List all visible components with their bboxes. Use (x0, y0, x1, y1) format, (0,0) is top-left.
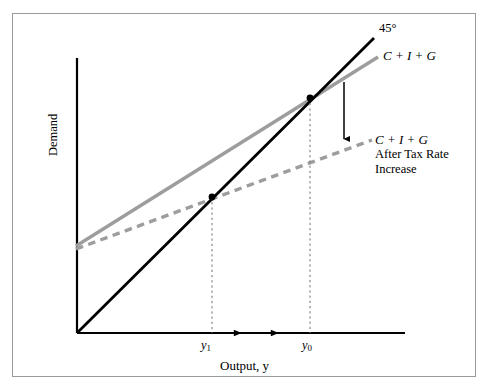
label-cig-original: C + I + G (383, 48, 436, 63)
x-axis-title: Output, y (220, 358, 269, 373)
label-cig-after-tax: C + I + G (375, 132, 428, 147)
label-45-degree: 45° (379, 21, 397, 36)
x-tick-y0-subscript: 0 (308, 343, 313, 353)
x-tick-label-y1: y1 (201, 338, 211, 354)
after-tax-line-1: After Tax Rate (375, 147, 449, 162)
label-after-tax-caption: After Tax Rate Increase (375, 147, 449, 177)
after-tax-line-2: Increase (375, 162, 449, 177)
y-axis-title: Demand (46, 86, 61, 156)
x-tick-label-y0: y0 (302, 338, 312, 354)
x-tick-y1-subscript: 1 (207, 343, 212, 353)
figure-root: 45° C + I + G C + I + G After Tax Rate I… (0, 0, 495, 392)
figure-border (12, 13, 476, 377)
